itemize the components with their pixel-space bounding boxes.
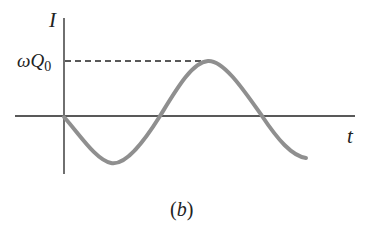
figure-caption: (b) (170, 198, 193, 221)
x-axis-label: t (347, 124, 353, 149)
peak-level-symbol: ωQ (17, 50, 44, 71)
y-axis-label: I (49, 8, 56, 33)
peak-level-label: ωQ0 (17, 50, 51, 72)
caption-letter: b (177, 198, 187, 220)
current-curve (64, 61, 306, 163)
peak-level-subscript: 0 (44, 59, 51, 74)
caption-close-paren: ) (187, 198, 194, 220)
caption-open-paren: ( (170, 198, 177, 220)
